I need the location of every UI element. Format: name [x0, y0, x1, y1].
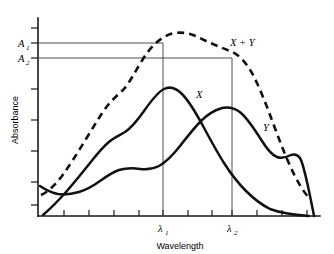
y-axis-title: Absorbance — [10, 96, 20, 144]
plot-axes — [38, 18, 320, 216]
absorbance-label-a1-subscript: 1 — [26, 44, 30, 52]
series-label-x: X — [195, 89, 203, 100]
x-axis-title: Wavelength — [156, 241, 203, 251]
wavelength-label-lambda2-subscript: 2 — [234, 229, 238, 237]
series-label-x-plus-y: X + Y — [229, 37, 256, 48]
chart-canvas: X Y X + Y A 1 A 2 λ 1 λ 2 Wavelength Abs… — [0, 0, 334, 254]
x-axis-ticks — [64, 210, 307, 216]
curve-y — [40, 108, 314, 216]
absorbance-label-a1: A — [17, 38, 25, 49]
wavelength-label-lambda1: λ — [157, 223, 163, 234]
y-axis-ticks — [31, 28, 38, 205]
series-label-y: Y — [263, 122, 270, 133]
wavelength-label-lambda2: λ — [226, 223, 232, 234]
wavelength-label-lambda1-subscript: 1 — [165, 229, 169, 237]
absorbance-label-a2-subscript: 2 — [26, 59, 30, 67]
absorbance-label-a2: A — [17, 53, 25, 64]
absorbance-spectrum-figure: X Y X + Y A 1 A 2 λ 1 λ 2 Wavelength Abs… — [0, 0, 334, 254]
